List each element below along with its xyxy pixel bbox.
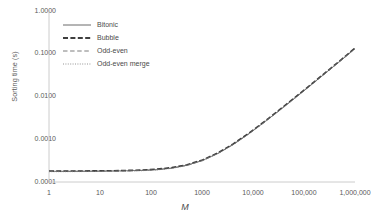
- chart-legend: Bitonic Bubble Odd-even Odd-even merge: [62, 18, 192, 70]
- legend-key-bitonic: [62, 20, 92, 30]
- legend-item-bubble: Bubble: [62, 31, 192, 44]
- legend-item-bitonic: Bitonic: [62, 18, 192, 31]
- legend-label-bubble: Bubble: [97, 34, 119, 41]
- legend-label-odd-even-merge: Odd-even merge: [97, 60, 150, 67]
- legend-label-bitonic: Bitonic: [97, 21, 118, 28]
- legend-label-odd-even: Odd-even: [97, 47, 128, 54]
- legend-item-odd-even-merge: Odd-even merge: [62, 57, 192, 70]
- legend-item-odd-even: Odd-even: [62, 44, 192, 57]
- legend-key-odd-even: [62, 46, 92, 56]
- x-axis-title: M: [0, 202, 370, 212]
- legend-key-bubble: [62, 33, 92, 43]
- legend-key-odd-even-merge: [62, 59, 92, 69]
